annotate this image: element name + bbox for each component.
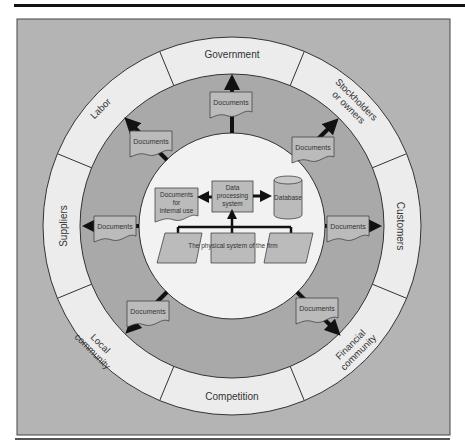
svg-text:processing: processing xyxy=(217,192,249,200)
svg-text:Documents: Documents xyxy=(330,223,366,230)
sector-label-customers: Customers xyxy=(395,202,406,250)
database-label: Database xyxy=(274,194,302,201)
svg-text:Documents: Documents xyxy=(160,191,194,198)
bottom-rule xyxy=(15,438,450,440)
sector-label-competition: Competition xyxy=(205,391,258,402)
svg-text:internal use: internal use xyxy=(160,207,194,214)
svg-text:Documents: Documents xyxy=(213,99,249,106)
svg-text:Documents: Documents xyxy=(130,308,166,315)
svg-text:Data: Data xyxy=(226,184,240,191)
svg-text:Documents: Documents xyxy=(133,138,169,145)
sector-label-suppliers: Suppliers xyxy=(58,205,69,247)
firm-environment-diagram: Government Stockholders or owners Custom… xyxy=(0,0,465,445)
svg-text:Documents: Documents xyxy=(299,305,335,312)
svg-text:Documents: Documents xyxy=(97,223,133,230)
svg-text:Customers: Customers xyxy=(395,202,406,250)
svg-text:for: for xyxy=(173,199,181,206)
sector-label-government: Government xyxy=(204,49,259,60)
svg-text:Suppliers: Suppliers xyxy=(58,205,69,247)
svg-text:system: system xyxy=(222,200,243,208)
physical-system-label: The physical system of the firm xyxy=(188,242,278,250)
svg-text:Documents: Documents xyxy=(295,144,331,151)
